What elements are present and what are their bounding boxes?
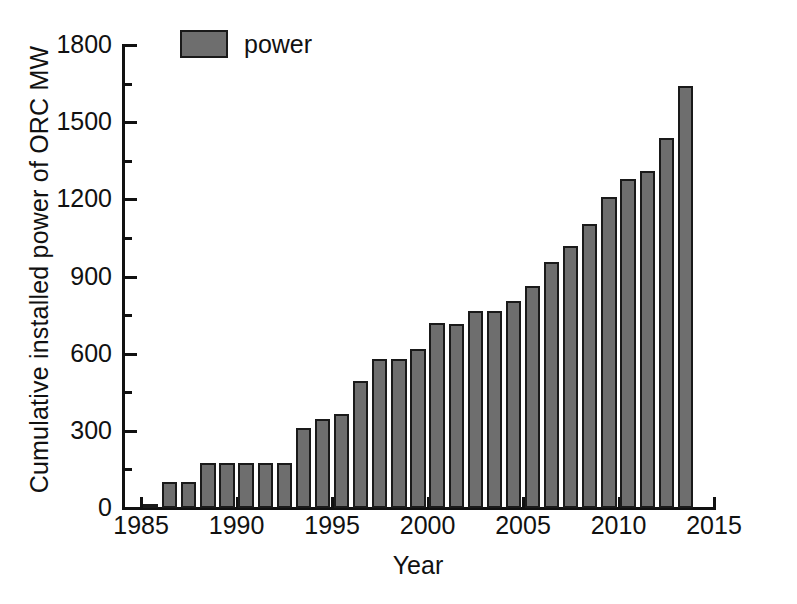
bar-1998: [391, 359, 406, 508]
y-tick-label: 1800: [0, 32, 112, 57]
bar-2012: [659, 138, 674, 508]
x-tick-label: 2015: [654, 513, 774, 538]
bar-1989: [219, 463, 234, 508]
bar-1993: [296, 428, 311, 508]
bar-1990: [238, 463, 253, 508]
bar-1985: [143, 504, 158, 508]
bar-2010: [620, 179, 635, 508]
bar-1992: [277, 463, 292, 508]
legend-label-power: power: [244, 32, 312, 57]
bar-2002: [468, 311, 483, 508]
bar-1996: [353, 381, 368, 508]
bar-2004: [506, 301, 521, 508]
bar-1997: [372, 359, 387, 508]
bar-2007: [563, 246, 578, 508]
bar-2011: [640, 171, 655, 508]
bar-2000: [429, 323, 444, 508]
bar-2003: [487, 311, 502, 508]
legend-swatch-power: [180, 30, 228, 58]
y-tick-label: 300: [0, 418, 112, 443]
y-tick-label: 1500: [0, 109, 112, 134]
bar-1999: [410, 349, 425, 508]
bar-2006: [544, 262, 559, 508]
y-axis-title: Cumulative installed power of ORC MW: [25, 35, 54, 505]
bar-1991: [258, 463, 273, 508]
y-tick-label: 900: [0, 264, 112, 289]
bar-2013: [678, 86, 693, 508]
bar-2008: [582, 224, 597, 508]
bar-1986: [162, 482, 177, 508]
bar-2009: [601, 197, 616, 508]
plot-area: [122, 45, 714, 508]
x-axis-title: Year: [122, 551, 714, 580]
bar-1987: [181, 482, 196, 508]
y-tick-label: 600: [0, 341, 112, 366]
bar-1994: [315, 419, 330, 508]
bar-2005: [525, 286, 540, 508]
bar-1995: [334, 414, 349, 508]
bar-2001: [449, 324, 464, 508]
bar-chart: Cumulative installed power of ORC MW Yea…: [0, 0, 797, 604]
y-tick-label: 1200: [0, 186, 112, 211]
legend: power: [180, 30, 312, 58]
bar-1988: [200, 463, 215, 508]
